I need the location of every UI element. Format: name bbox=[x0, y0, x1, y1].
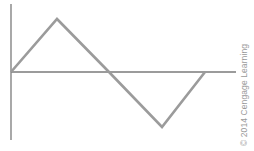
triangle-wave bbox=[11, 19, 205, 127]
copyright-credit: © 2014 Cengage Learning bbox=[239, 44, 249, 146]
waveform-diagram bbox=[0, 0, 254, 151]
